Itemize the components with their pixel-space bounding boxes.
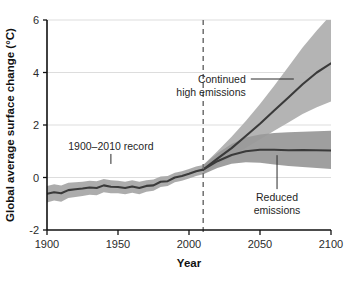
annotation-reduced-emissions-label-line2: emissions [254,204,301,216]
chart-container: 6420-2 19001950200020502100 Year Global … [0,0,358,284]
annotation-historical-record-label: 1900–2010 record [68,140,153,152]
y-tick-label-6: 6 [33,14,39,26]
y-tick-label-2: 2 [33,119,39,131]
x-tick-label-2050: 2050 [248,238,272,250]
annotation-high-emissions-label-line1: Continued [198,73,246,85]
x-tick-label-2000: 2000 [177,238,201,250]
x-tick-label-1900: 1900 [35,238,59,250]
climate-projection-chart: 6420-2 19001950200020502100 Year Global … [0,0,358,284]
x-axis-title: Year [177,257,202,269]
x-tick-label-2100: 2100 [319,238,343,250]
annotation-high-emissions-label-line2: high emissions [176,86,245,98]
x-tick-label-1950: 1950 [106,238,130,250]
y-tick-label-0: 0 [33,172,39,184]
annotation-reduced-emissions-label-line1: Reduced [256,191,298,203]
y-tick-label--2: -2 [29,224,39,236]
y-tick-label-4: 4 [33,67,39,79]
y-axis-title: Global average surface change (°C) [4,28,16,222]
